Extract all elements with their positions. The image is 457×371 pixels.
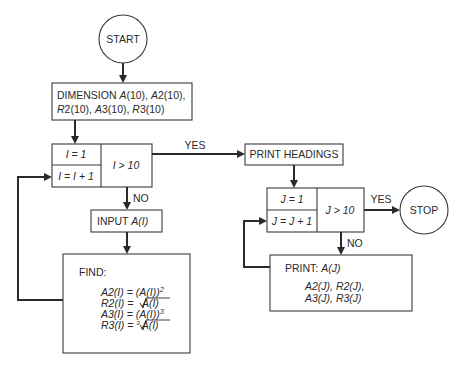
arrowhead-icon	[392, 206, 400, 214]
print-box: PRINT: A(J) A2(J), R2(J), A3(J), R3(J)	[270, 255, 412, 311]
loop-i-no-label: NO	[133, 192, 149, 204]
print-line-3: A3(J), R3(J)	[304, 292, 362, 304]
print-line-1: PRINT: A(J)	[285, 262, 340, 274]
loop-j-init: J = 1	[279, 193, 303, 205]
print-headings-label: PRINT HEADINGS	[249, 148, 338, 160]
loop-i-yes-label: YES	[184, 139, 205, 151]
loop-j-no-label: NO	[347, 237, 363, 249]
loop-i-test: I > 10	[113, 159, 140, 171]
loop-j-test: J > 10	[325, 204, 355, 216]
stop-terminal: STOP	[400, 186, 448, 234]
dimension-box: DIMENSION A(10), A2(10), R2(10), A3(10),…	[52, 83, 192, 120]
arrowhead-icon	[119, 75, 127, 83]
loop-j-yes-label: YES	[370, 193, 391, 205]
flowchart-canvas: START DIMENSION A(10), A2(10), R2(10), A…	[0, 0, 457, 371]
loop-back-i-line	[18, 177, 63, 300]
dimension-line-1: DIMENSION A(10), A2(10),	[57, 89, 185, 101]
arrowhead-icon	[123, 246, 131, 254]
print-headings-box: PRINT HEADINGS	[245, 144, 343, 165]
arrowhead-icon	[337, 247, 345, 255]
find-heading: FIND:	[79, 266, 106, 278]
loop-i-box: I = 1 I = I + 1 I > 10	[52, 144, 152, 187]
loop-back-j-line	[244, 221, 270, 267]
find-box: FIND: A2(I) = (A(I))2 R2(I) = A(I) A3(I)…	[63, 254, 190, 353]
loop-i-increment: I = I + 1	[58, 170, 94, 182]
find-eq-r3: R3(I) = 3A(I)	[101, 319, 159, 331]
start-terminal: START	[99, 15, 147, 63]
arrowhead-icon	[123, 202, 131, 210]
arrowhead-icon	[44, 173, 52, 181]
arrowhead-icon	[259, 217, 267, 225]
arrowhead-icon	[237, 150, 245, 158]
input-label: INPUT A(I)	[97, 215, 148, 227]
input-box: INPUT A(I)	[91, 210, 162, 232]
loop-j-increment: J = J + 1	[271, 215, 312, 227]
start-label: START	[106, 33, 140, 45]
print-line-2: A2(J), R2(J),	[304, 280, 365, 292]
loop-i-init: I = 1	[66, 148, 87, 160]
loop-j-box: J = 1 J = J + 1 J > 10	[267, 188, 364, 232]
arrowhead-icon	[71, 136, 79, 144]
stop-label: STOP	[410, 204, 438, 216]
arrowhead-icon	[290, 180, 298, 188]
dimension-line-2: R2(10), A3(10), R3(10)	[57, 103, 164, 115]
